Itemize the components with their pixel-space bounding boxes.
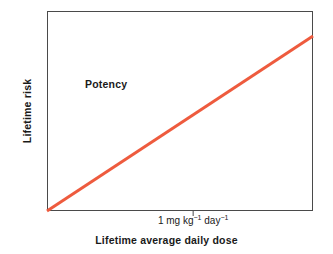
chart-figure: Potency 1 mg kg−1 day−1 Lifetime average… (0, 0, 333, 254)
plot-frame (47, 11, 313, 211)
x-tick-label-prefix: 1 mg kg (158, 215, 194, 226)
x-axis-tick-label: 1 mg kg−1 day−1 (158, 215, 228, 226)
x-tick-label-middle: day (201, 215, 220, 226)
y-axis-title: Lifetime risk (21, 79, 33, 143)
x-tick-exponent-mass: −1 (193, 214, 201, 221)
x-axis-title: Lifetime average daily dose (0, 234, 333, 246)
x-tick-exponent-time: −1 (220, 214, 228, 221)
potency-annotation: Potency (85, 78, 127, 90)
